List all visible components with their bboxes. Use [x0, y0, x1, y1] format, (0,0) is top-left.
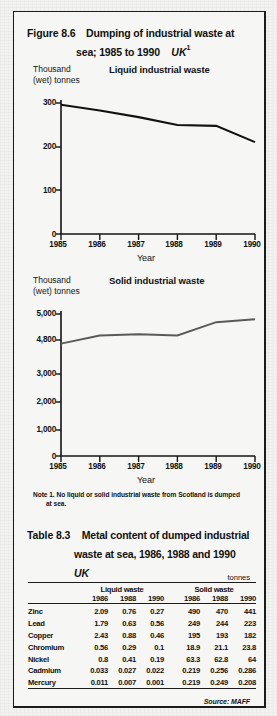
chart2-plot-area: [58, 305, 258, 467]
chart1-xtick-1987: 1987: [124, 240, 148, 249]
table-cell-gap: [164, 677, 172, 689]
table-cell-liquid-1988: 0.29: [108, 641, 136, 653]
table-cell-liquid-1988: 0.63: [108, 618, 136, 630]
table-group-header-solid: Solid waste: [172, 585, 256, 594]
table-cell-solid-1986: 0.219: [172, 665, 200, 677]
table-row-metal: Zinc: [28, 606, 80, 618]
table-group-header-liquid: Liquid waste: [80, 585, 164, 594]
table-cell-solid-1990: 0.286: [228, 665, 256, 677]
figure-title-line2: sea; 1985 to 1990: [76, 46, 160, 58]
table-cell-solid-1988: 0.249: [200, 677, 228, 689]
table-cell-gap: [164, 665, 172, 677]
table-cell-liquid-1988: 0.027: [108, 665, 136, 677]
table-cell-liquid-1988: 0.41: [108, 653, 136, 665]
figure-geography: UK: [171, 46, 186, 58]
table-unit-label: tonnes: [227, 573, 250, 582]
table-cell-liquid-1988: 0.76: [108, 606, 136, 618]
table-label: Table 8.3: [27, 529, 70, 541]
table-cell-liquid-1990: 0.1: [136, 641, 164, 653]
table-cell-liquid-1990: 0.19: [136, 653, 164, 665]
chart1-y-axis-unit: Thousand (wet) tonnes: [33, 64, 80, 85]
figure-label: Figure 8.6: [27, 27, 76, 39]
chart1-xtick-1985: 1985: [46, 240, 70, 249]
table-year-header-liquid-1990: 1990: [136, 594, 164, 604]
table-cell-solid-1990: 441: [228, 606, 256, 618]
table-row: Lead 1.79 0.63 0.56 249 244 223: [28, 618, 256, 630]
chart2-title: Solid industrial waste: [109, 275, 204, 286]
chart1-ytick-100: 100: [30, 186, 56, 195]
table-cell-liquid-1986: 0.033: [80, 665, 108, 677]
table-cell-solid-1990: 0.208: [228, 677, 256, 689]
table-year-header-gap: [164, 594, 172, 604]
chart1-plot-area: [58, 94, 258, 246]
chart1-x-axis-label: Year: [126, 253, 166, 263]
chart2-ytick-1000: 1,000: [22, 425, 56, 434]
figure-note: Note 1. No liquid or solid industrial wa…: [33, 491, 255, 508]
table-row-metal: Lead: [28, 618, 80, 630]
table-year-header-solid-1988: 1988: [200, 594, 228, 604]
figure-table-frame: Figure 8.6 Dumping of industrial waste a…: [13, 11, 266, 708]
table-title-line2: waste at sea, 1986, 1988 and 1990: [74, 548, 236, 560]
table-cell-solid-1986: 490: [172, 606, 200, 618]
table-group-header-gap: [164, 585, 172, 594]
table-row-metal: Cadmium: [28, 665, 80, 677]
table-cell-solid-1988: 470: [200, 606, 228, 618]
figure-footnote-marker: 1: [186, 44, 190, 51]
table-year-header-solid-1986: 1986: [172, 594, 200, 604]
table-row: Copper 2.43 0.88 0.46 195 193 182: [28, 630, 256, 642]
table-cell-solid-1988: 193: [200, 630, 228, 642]
chart1-xtick-1989: 1989: [201, 240, 225, 249]
table-cell-solid-1986: 18.9: [172, 641, 200, 653]
table-cell-gap: [164, 641, 172, 653]
table-year-header-solid-1990: 1990: [228, 594, 256, 604]
table-title-line1: Metal content of dumped industrial: [82, 529, 250, 541]
table-row: Nickel 0.8 0.41 0.19 63.3 62.8 64: [28, 653, 256, 665]
chart-solid-industrial-waste: Thousand (wet) tonnes Solid industrial w…: [14, 275, 267, 485]
table-cell-liquid-1988: 0.88: [108, 630, 136, 642]
chart1-ytick-300: 300: [30, 98, 56, 107]
table-cell-liquid-1990: 0.46: [136, 630, 164, 642]
table-row-metal: Nickel: [28, 653, 80, 665]
table-cell-solid-1986: 195: [172, 630, 200, 642]
table-cell-gap: [164, 653, 172, 665]
table-year-header-row: 1986 1988 1990 1986 1988 1990: [28, 594, 256, 604]
table-cell-liquid-1986: 0.56: [80, 641, 108, 653]
table-row: Chromium 0.56 0.29 0.1 18.9 21.1 23.8: [28, 641, 256, 653]
table-cell-liquid-1990: 0.001: [136, 677, 164, 689]
chart2-xtick-1986: 1986: [85, 462, 109, 471]
table-cell-liquid-1986: 2.09: [80, 606, 108, 618]
table-cell-solid-1988: 62.8: [200, 653, 228, 665]
figure-heading: Figure 8.6 Dumping of industrial waste a…: [27, 23, 252, 60]
table-cell-gap: [164, 606, 172, 618]
table-cell-solid-1988: 0.256: [200, 665, 228, 677]
table-cell-liquid-1988: 0.007: [108, 677, 136, 689]
table-heading: Table 8.3 Metal content of dumped indust…: [27, 525, 255, 581]
table-group-header-row: Liquid waste Solid waste: [28, 585, 256, 594]
table-cell-liquid-1986: 0.011: [80, 677, 108, 689]
table-cell-solid-1990: 223: [228, 618, 256, 630]
table-cell-gap: [164, 618, 172, 630]
chart2-xtick-1988: 1988: [162, 462, 186, 471]
table-row-metal: Chromium: [28, 641, 80, 653]
chart2-y-axis-unit: Thousand (wet) tonnes: [33, 275, 80, 296]
table-cell-solid-1986: 249: [172, 618, 200, 630]
chart2-ytick-5000: 5,000: [22, 309, 56, 318]
table-cell-solid-1990: 64: [228, 653, 256, 665]
table-cell-liquid-1990: 0.56: [136, 618, 164, 630]
chart1-y-unit-line1: Thousand: [33, 64, 71, 74]
table-cell-solid-1986: 0.219: [172, 677, 200, 689]
table-cell-solid-1988: 244: [200, 618, 228, 630]
chart-liquid-industrial-waste: Thousand (wet) tonnes Liquid industrial …: [14, 64, 267, 270]
chart2-ytick-2000: 2,000: [22, 397, 56, 406]
metal-content-table: Liquid waste Solid waste 1986 1988 1990 …: [28, 582, 256, 691]
chart2-y-unit-line1: Thousand: [33, 275, 71, 285]
chart2-xtick-1990: 1990: [240, 462, 264, 471]
table-cell-solid-1990: 182: [228, 630, 256, 642]
table-cell-liquid-1986: 1.79: [80, 618, 108, 630]
table-year-header-liquid-1988: 1988: [108, 594, 136, 604]
table-geography: UK: [74, 567, 89, 579]
table-group-header-blank: [28, 585, 80, 594]
chart2-x-axis-label: Year: [126, 475, 166, 485]
table-rule-bottom: [28, 689, 256, 692]
chart1-y-unit-line2: (wet) tonnes: [33, 75, 80, 85]
